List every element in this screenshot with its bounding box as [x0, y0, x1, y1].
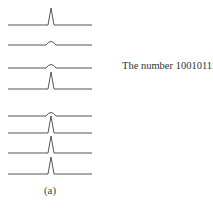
- pulse-one: [8, 8, 92, 25]
- pulse-one: [8, 157, 92, 174]
- pulse-zero: [8, 42, 92, 46]
- pulse-one: [8, 136, 92, 153]
- bit-pulse-diagram: [0, 0, 213, 213]
- pulse-zero: [8, 65, 92, 69]
- figure-caption: (a): [0, 184, 100, 196]
- pulse-one: [8, 116, 92, 133]
- pulse-zero: [8, 113, 92, 117]
- pulse-one: [8, 72, 92, 89]
- number-label: The number 10010111: [122, 60, 213, 71]
